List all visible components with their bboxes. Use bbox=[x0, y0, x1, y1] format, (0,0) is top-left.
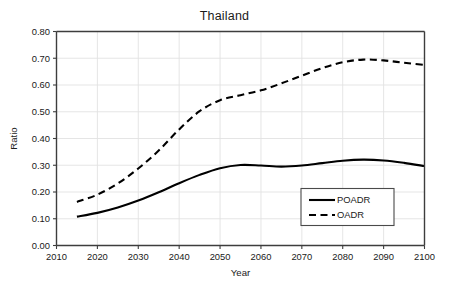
x-tick-label: 2010 bbox=[46, 251, 67, 262]
x-tick-label: 2060 bbox=[251, 251, 272, 262]
y-tick-label: 0.40 bbox=[32, 133, 50, 144]
y-tick-label: 0.10 bbox=[32, 213, 50, 224]
x-tick-label: 2100 bbox=[414, 251, 435, 262]
chart-legend[interactable]: POADROADR bbox=[301, 189, 394, 226]
x-tick-label: 2030 bbox=[128, 251, 149, 262]
x-tick-label: 2040 bbox=[169, 251, 190, 262]
y-axis-label: Ratio bbox=[8, 127, 19, 149]
line-chart: 0.000.100.200.300.400.500.600.700.802010… bbox=[0, 0, 449, 285]
x-tick-label: 2090 bbox=[373, 251, 394, 262]
x-tick-label: 2070 bbox=[291, 251, 312, 262]
y-tick-label: 0.20 bbox=[32, 186, 50, 197]
x-tick-label: 2050 bbox=[210, 251, 231, 262]
x-tick-label: 2080 bbox=[332, 251, 353, 262]
x-tick-label: 2020 bbox=[87, 251, 108, 262]
y-tick-label: 0.00 bbox=[32, 240, 50, 251]
x-axis-label: Year bbox=[231, 267, 251, 278]
legend-label-oadr[interactable]: OADR bbox=[337, 209, 364, 220]
y-tick-label: 0.50 bbox=[32, 106, 50, 117]
legend-label-poadr[interactable]: POADR bbox=[337, 194, 371, 205]
y-tick-label: 0.30 bbox=[32, 160, 50, 171]
y-tick-label: 0.80 bbox=[32, 26, 50, 37]
y-tick-label: 0.70 bbox=[32, 53, 50, 64]
chart-page: Thailand 0.000.100.200.300.400.500.600.7… bbox=[0, 0, 449, 285]
y-tick-label: 0.60 bbox=[32, 79, 50, 90]
tick-labels: 0.000.100.200.300.400.500.600.700.802010… bbox=[8, 26, 435, 278]
series-line-oadr bbox=[77, 60, 425, 202]
